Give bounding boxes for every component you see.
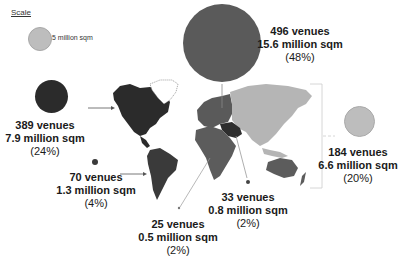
africa-venues: 25 venues: [138, 218, 217, 231]
north-america-area: 7.9 million sqm: [5, 132, 84, 145]
connector-africa: [180, 158, 210, 207]
north-america-venues: 389 venues: [5, 119, 84, 132]
region-central-america: [140, 136, 150, 148]
asia-pacific-area: 6.6 million sqm: [318, 159, 397, 172]
europe-share: (48%): [257, 51, 343, 64]
latin-america-venues: 70 venues: [56, 171, 135, 184]
bubble-middle-east: [246, 180, 250, 184]
europe-venues: 496 venues: [257, 25, 343, 38]
middle-east-venues: 33 venues: [208, 191, 287, 204]
label-middle-east: 33 venues 0.8 million sqm (2%): [208, 191, 287, 230]
region-south-america: [147, 148, 178, 200]
region-australia: [266, 158, 298, 178]
europe-area: 15.6 million sqm: [257, 38, 343, 51]
label-latin-america: 70 venues 1.3 million sqm (4%): [56, 171, 135, 210]
label-asia-pacific: 184 venues 6.6 million sqm (20%): [318, 146, 397, 185]
latin-america-share: (4%): [56, 197, 135, 210]
label-north-america: 389 venues 7.9 million sqm (24%): [5, 119, 84, 158]
africa-area: 0.5 million sqm: [138, 231, 217, 244]
region-asia: [230, 84, 312, 146]
asia-pacific-share: (20%): [318, 172, 397, 185]
latin-america-area: 1.3 million sqm: [56, 184, 135, 197]
bubble-latin-america: [92, 159, 98, 165]
label-africa: 25 venues 0.5 million sqm (2%): [138, 218, 217, 257]
middle-east-share: (2%): [208, 217, 287, 230]
bubble-north-america: [35, 80, 68, 113]
bubble-europe: [183, 4, 261, 82]
bubble-asia-pacific: [344, 106, 375, 137]
north-america-share: (24%): [5, 145, 84, 158]
label-europe: 496 venues 15.6 million sqm (48%): [257, 25, 343, 64]
region-new-zealand: [300, 172, 306, 186]
africa-share: (2%): [138, 244, 217, 257]
region-southeast-asia: [262, 148, 288, 158]
middle-east-area: 0.8 million sqm: [208, 204, 287, 217]
asia-pacific-venues: 184 venues: [318, 146, 397, 159]
connector-middle-east: [236, 136, 247, 178]
